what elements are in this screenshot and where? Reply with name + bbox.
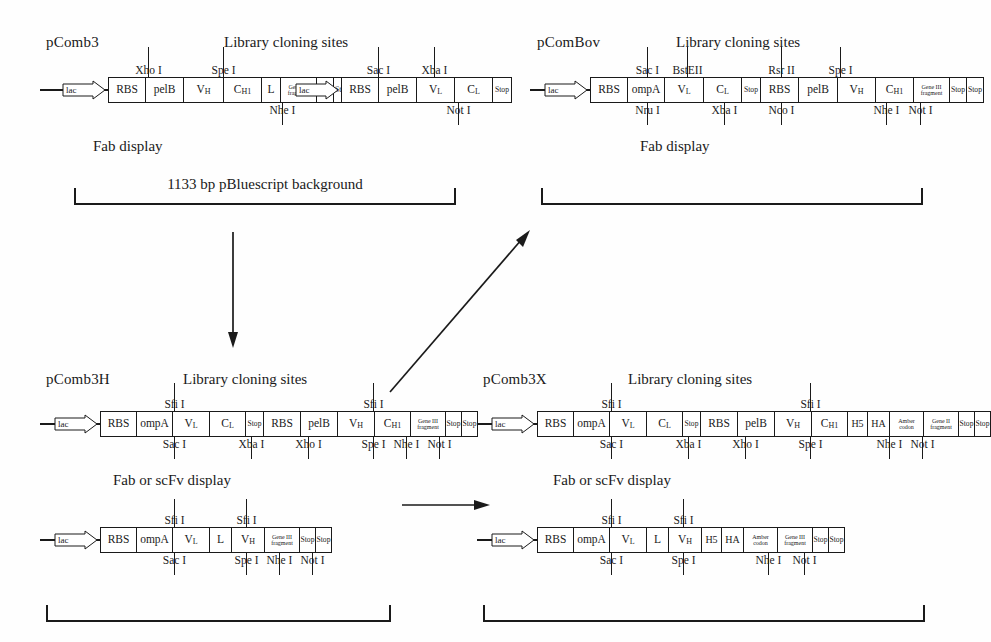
display-label-pcomb3x: Fab or scFv display xyxy=(553,472,671,489)
segment-row: RBS ompA VL L VH Gene III fragment Stop … xyxy=(100,527,332,553)
cloning-sites-title-pcomb3h: Library cloning sites xyxy=(183,371,307,388)
segment-stop: Stop xyxy=(246,411,264,437)
segment-vh: VH xyxy=(775,411,812,437)
segment-vl: VL xyxy=(173,527,210,553)
segment-ha-tag: HA xyxy=(722,527,744,553)
segment-vl: VL xyxy=(610,411,647,437)
segment-vh: VH xyxy=(338,411,375,437)
segment-rbs: RBS xyxy=(537,411,574,437)
segment-ompa: ompA xyxy=(574,527,610,553)
segment-amber-codon: Amber codon xyxy=(744,527,778,553)
display-label-pcomb3h: Fab or scFv display xyxy=(113,472,231,489)
segment-stop: Stop xyxy=(813,527,829,553)
svg-text:lac: lac xyxy=(495,535,506,545)
segment-ompa: ompA xyxy=(137,527,173,553)
cloning-sites-title-pcomb3x: Library cloning sites xyxy=(628,371,752,388)
construct-map-pcomb3h: lac RBS ompA VL CL Stop RBS pelB VH CH1 … xyxy=(40,411,428,437)
segment-stop: Stop xyxy=(446,411,462,437)
segment-stop: Stop xyxy=(967,77,984,103)
segment-row: RBS ompA VL CL Stop RBS pelB VH CH1 H5 H… xyxy=(537,411,991,437)
segment-stop: Stop xyxy=(829,527,845,553)
lac-promoter-arrow: lac xyxy=(54,414,98,434)
construct-map-pcomb3x: lac RBS ompA VL CL Stop RBS pelB VH CH1 … xyxy=(477,411,925,437)
segment-rbs: RBS xyxy=(537,527,574,553)
segment-stop: Stop xyxy=(462,411,478,437)
construct-map-scfv-left: lac RBS ompA VL L VH Gene III fragment S… xyxy=(40,527,300,553)
segment-vh: VH xyxy=(669,527,702,553)
lac-promoter-arrow: lac xyxy=(491,414,535,434)
segment-stop: Stop xyxy=(300,527,316,553)
segment-vl: VL xyxy=(610,527,647,553)
lac-promoter-arrow: lac xyxy=(54,530,98,550)
segment-ch1: CH1 xyxy=(812,411,848,437)
scfv-right-bracket xyxy=(483,605,925,622)
segment-pelb: pelB xyxy=(738,411,775,437)
segment-stop: Stop xyxy=(975,411,991,437)
segment-ha-tag: HA xyxy=(868,411,890,437)
segment-vl: VL xyxy=(173,411,210,437)
segment-vh: VH xyxy=(232,527,265,553)
segment-row: RBS ompA VL L VH H5 HA Amber codon Gene … xyxy=(537,527,845,553)
segment-rbs: RBS xyxy=(701,411,738,437)
segment-ompa: ompA xyxy=(137,411,173,437)
plasmid-name-pcomb3h: pComb3H xyxy=(46,371,110,388)
segment-ompa: ompA xyxy=(574,411,610,437)
arrow-down-pcomb3-to-pcomb3h xyxy=(228,232,238,348)
segment-ch1: CH1 xyxy=(375,411,411,437)
construct-map-scfv-right: lac RBS ompA VL L VH H5 HA Amber codon G… xyxy=(477,527,817,553)
segment-stop: Stop xyxy=(316,527,332,553)
scfv-left-bracket xyxy=(46,605,391,622)
svg-text:lac: lac xyxy=(58,535,69,545)
arrow-right-scfv-left-to-scfv-right xyxy=(402,500,490,510)
segment-h5: H5 xyxy=(702,527,722,553)
svg-text:lac: lac xyxy=(58,419,69,429)
segment-cl: CL xyxy=(210,411,246,437)
plasmid-name-pcomb3x: pComb3X xyxy=(483,371,547,388)
segment-pelb: pelB xyxy=(301,411,338,437)
segment-rbs: RBS xyxy=(264,411,301,437)
segment-gene3-fragment: Gene III fragment xyxy=(265,527,300,553)
segment-linker: L xyxy=(647,527,669,553)
segment-linker: L xyxy=(210,527,232,553)
segment-row: RBS ompA VL CL Stop RBS pelB VH CH1 Gene… xyxy=(100,411,478,437)
segment-stop: Stop xyxy=(959,411,975,437)
svg-text:lac: lac xyxy=(495,419,506,429)
segment-rbs: RBS xyxy=(100,527,137,553)
segment-rbs: RBS xyxy=(100,411,137,437)
segment-cl: CL xyxy=(647,411,683,437)
segment-stop: Stop xyxy=(683,411,701,437)
segment-h5: H5 xyxy=(848,411,868,437)
lac-promoter-arrow: lac xyxy=(491,530,535,550)
segment-gene-fragment: Gene II fragment xyxy=(924,411,959,437)
arrow-diagonal-pcomb3h-to-pcombov xyxy=(390,230,530,392)
segment-gene3-fragment: Gene III fragment xyxy=(411,411,446,437)
segment-gene3-fragment: Gene III fragment xyxy=(778,527,813,553)
segment-amber-codon: Amber codon xyxy=(890,411,924,437)
